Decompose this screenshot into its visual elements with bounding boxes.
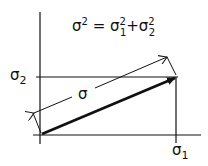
vector-diagram: σ2 = σ21+σ22 σ2 σ1 σ bbox=[0, 0, 208, 166]
resultant-vector bbox=[42, 78, 175, 134]
sigma1-label: σ1 bbox=[172, 141, 189, 162]
resultant-label: σ bbox=[78, 85, 88, 103]
dimension-line-right bbox=[95, 57, 167, 88]
sigma2-label: σ2 bbox=[10, 66, 27, 87]
extension-tick-right bbox=[167, 57, 176, 75]
equation: σ2 = σ21+σ22 bbox=[72, 16, 155, 38]
